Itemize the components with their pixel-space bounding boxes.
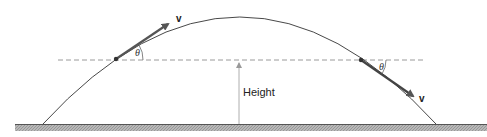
- ground: [15, 124, 487, 131]
- velocity-vector-right: [361, 60, 413, 96]
- trajectory-diagram: [0, 0, 487, 137]
- angle-label-right: θ: [379, 61, 384, 72]
- velocity-vector-left: [116, 24, 168, 59]
- projectile-point-right: [359, 58, 363, 62]
- angle-label-left: θ: [135, 47, 140, 58]
- velocity-label-right: v: [419, 93, 425, 104]
- projectile-point-left: [114, 57, 118, 61]
- velocity-label-left: v: [176, 13, 182, 24]
- height-label: Height: [243, 86, 275, 98]
